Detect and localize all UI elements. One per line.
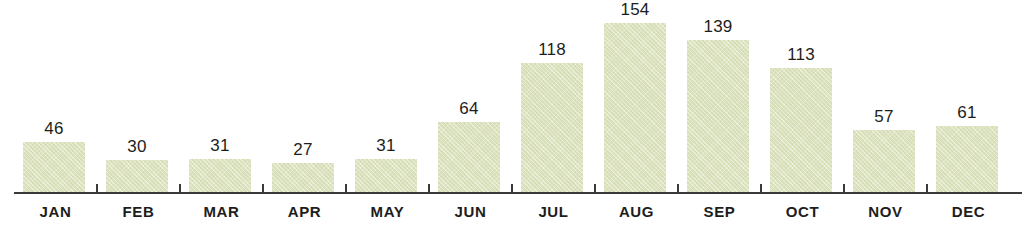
bar-group-may[interactable]: 31: [346, 0, 429, 193]
bar-group-jan[interactable]: 46: [14, 0, 97, 193]
bar-rect-may[interactable]: [355, 159, 417, 193]
x-label-jan: JAN: [14, 199, 97, 225]
x-axis-tick: [926, 184, 928, 193]
bar-value-mar: 31: [210, 137, 229, 159]
bar-value-sep: 139: [704, 18, 733, 40]
bar-group-sep[interactable]: 139: [678, 0, 761, 193]
x-label-may: MAY: [346, 199, 429, 225]
x-axis-line: [14, 192, 1022, 194]
x-axis-tick: [345, 184, 347, 193]
bar-value-jan: 46: [44, 120, 63, 142]
bar-value-nov: 57: [874, 108, 893, 130]
x-label-jun: JUN: [429, 199, 512, 225]
bar-group-mar[interactable]: 31: [180, 0, 263, 193]
bar-value-oct: 113: [787, 46, 815, 68]
x-axis-labels: JAN FEB MAR APR MAY JUN JUL AUG SEP OCT …: [14, 199, 1022, 231]
bar-column: 57: [853, 0, 915, 193]
bar-rect-mar[interactable]: [189, 159, 251, 193]
bar-value-aug: 154: [621, 1, 650, 23]
bar-value-jun: 64: [459, 100, 478, 122]
bar-value-apr: 27: [293, 141, 312, 163]
bar-rect-dec[interactable]: [936, 126, 998, 193]
bar-rect-jan[interactable]: [23, 142, 85, 193]
bar-group-dec[interactable]: 61: [927, 0, 1010, 193]
bar-column: 30: [106, 0, 168, 193]
x-axis-tick: [594, 184, 596, 193]
bar-group-aug[interactable]: 154: [595, 0, 678, 193]
bar-column: 31: [189, 0, 251, 193]
bar-value-jul: 118: [538, 41, 566, 63]
x-axis-tick: [262, 184, 264, 193]
bar-value-feb: 30: [127, 138, 146, 160]
bar-column: 27: [272, 0, 334, 193]
bar-rect-apr[interactable]: [272, 163, 334, 193]
x-label-dec: DEC: [927, 199, 1010, 225]
plot-area: 46 30 31 27 31: [14, 0, 1022, 193]
bar-group-jul[interactable]: 118: [512, 0, 595, 193]
bar-column: 61: [936, 0, 998, 193]
bar-column: 139: [687, 0, 749, 193]
x-axis-tick: [96, 184, 98, 193]
bar-rect-aug[interactable]: [604, 23, 666, 193]
bar-value-dec: 61: [957, 104, 976, 126]
x-label-aug: AUG: [595, 199, 678, 225]
x-label-feb: FEB: [97, 199, 180, 225]
bar-group-oct[interactable]: 113: [761, 0, 844, 193]
bar-column: 113: [770, 0, 832, 193]
x-label-mar: MAR: [180, 199, 263, 225]
bar-group-nov[interactable]: 57: [844, 0, 927, 193]
bar-column: 118: [521, 0, 583, 193]
bar-group-apr[interactable]: 27: [263, 0, 346, 193]
bar-column: 64: [438, 0, 500, 193]
x-label-oct: OCT: [761, 199, 844, 225]
x-label-sep: SEP: [678, 199, 761, 225]
x-axis-tick: [760, 184, 762, 193]
x-axis-tick: [179, 184, 181, 193]
bar-chart: 46 30 31 27 31: [0, 0, 1036, 238]
bar-value-may: 31: [376, 137, 395, 159]
bar-rect-oct[interactable]: [770, 68, 832, 193]
x-label-apr: APR: [263, 199, 346, 225]
bar-group-jun[interactable]: 64: [429, 0, 512, 193]
bar-rect-jul[interactable]: [521, 63, 583, 193]
bar-rect-feb[interactable]: [106, 160, 168, 193]
bar-column: 31: [355, 0, 417, 193]
x-axis-tick: [428, 184, 430, 193]
bar-column: 46: [23, 0, 85, 193]
bar-rect-jun[interactable]: [438, 122, 500, 193]
x-axis-tick: [511, 184, 513, 193]
bar-rect-sep[interactable]: [687, 40, 749, 193]
x-label-jul: JUL: [512, 199, 595, 225]
x-label-nov: NOV: [844, 199, 927, 225]
x-axis-tick: [677, 184, 679, 193]
bar-group-feb[interactable]: 30: [97, 0, 180, 193]
bar-rect-nov[interactable]: [853, 130, 915, 193]
bar-column: 154: [604, 0, 666, 193]
x-axis-tick: [843, 184, 845, 193]
